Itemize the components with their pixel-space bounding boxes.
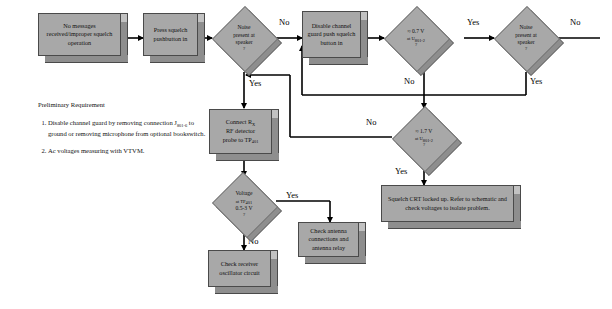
node-noise-speaker-1[interactable]: Noise present at speaker ? (212, 6, 276, 70)
edge-label-yes-3: Yes (530, 76, 542, 86)
noise1-line3: speaker (235, 39, 252, 45)
notes-list: Disable channel guard by removing connec… (38, 118, 213, 155)
volt17-line1: ≈ 1.7 V (416, 128, 433, 134)
node-check-antenna[interactable]: Check antenna connections and antenna re… (298, 222, 366, 264)
node-check-receiver[interactable]: Check receiver oscillator circuit (208, 250, 278, 294)
node-connect-rf-label: Connect RXRF detectorprobe to TP401 (221, 117, 261, 146)
node-voltage-tp401[interactable]: Voltage at TP401 0.5-3 V ? (210, 174, 278, 234)
edge-label-no-4: No (366, 117, 376, 127)
edge-label-yes-1: Yes (249, 78, 261, 88)
noise2-line4: ? (515, 46, 537, 52)
edge-label-yes-2: Yes (467, 17, 479, 27)
volt17-line2: at U801-2 (415, 136, 433, 142)
node-squelch-crt[interactable]: Squelch CRT locked up. Refer to schemati… (381, 185, 521, 229)
node-volt-1-7[interactable]: ≈ 1.7 V at U801-2 ? (392, 106, 456, 170)
node-squelch-crt-label: Squelch CRT locked up. Refer to schemati… (382, 194, 513, 212)
node-start[interactable]: No messages received/improper squelch op… (38, 13, 128, 63)
node-noise-speaker-1-label: Noise present at speaker ? (212, 6, 276, 70)
vtp-line4: ? (236, 212, 253, 218)
edge-label-yes-5: Yes (286, 190, 298, 200)
node-press-squelch[interactable]: Press squelch pushbutton in (143, 13, 205, 63)
preliminary-requirement-notes: Preliminary Requirement Disable channel … (38, 100, 213, 164)
edge-label-no-3: No (404, 76, 414, 86)
notes-heading: Preliminary Requirement (38, 100, 213, 109)
node-volt-0-7[interactable]: ≈ 0.7 V at U801-2 ? (384, 6, 448, 70)
node-check-antenna-label: Check antenna connections and antenna re… (299, 226, 358, 253)
node-disable-guard-label: Disable channel guard push squelch butto… (303, 21, 360, 48)
node-noise-speaker-2-label: Noise present at speaker ? (494, 6, 558, 70)
node-connect-rf[interactable]: Connect RXRF detectorprobe to TP401 (209, 109, 279, 161)
noise2-line1: Noise (519, 24, 532, 30)
node-volt-1-7-label: ≈ 1.7 V at U801-2 ? (392, 106, 456, 170)
node-press-squelch-label: Press squelch pushbutton in (144, 25, 197, 43)
volt07-line3: ? (407, 42, 425, 48)
volt17-line3: ? (415, 142, 433, 148)
flowchart-canvas: No messages received/improper squelch op… (0, 0, 612, 309)
volt07-line2: at U801-2 (407, 36, 425, 42)
edge-label-no-2: No (570, 17, 580, 27)
noise1-line1: Noise (237, 24, 250, 30)
noise1-line4: ? (233, 46, 255, 52)
volt07-line1: ≈ 0.7 V (408, 28, 425, 34)
node-start-label: No messages received/improper squelch op… (39, 21, 120, 48)
node-disable-guard[interactable]: Disable channel guard push squelch butto… (302, 11, 368, 65)
edge-label-no-1: No (279, 17, 289, 27)
node-volt-0-7-label: ≈ 0.7 V at U801-2 ? (384, 6, 448, 70)
note-item-1: Disable channel guard by removing connec… (48, 118, 213, 138)
vtp-line1: Voltage (236, 190, 253, 196)
node-check-receiver-label: Check receiver oscillator circuit (209, 259, 270, 277)
vtp-line3: 0.5-3 V (236, 205, 253, 211)
node-voltage-tp401-label: Voltage at TP401 0.5-3 V ? (210, 174, 278, 234)
note-item-2: Ac voltages measuring with VTVM. (48, 146, 213, 155)
noise1-line2: present at (233, 32, 255, 38)
noise2-line3: speaker (517, 39, 534, 45)
noise2-line2: present at (515, 32, 537, 38)
node-noise-speaker-2[interactable]: Noise present at speaker ? (494, 6, 558, 70)
